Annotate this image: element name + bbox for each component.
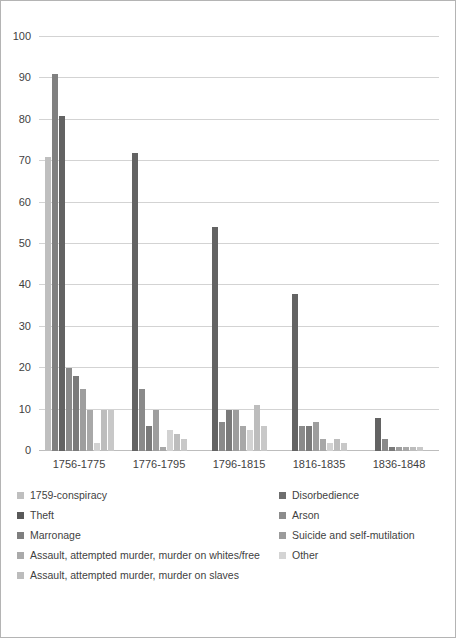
y-axis-tick-label: 20 [19,361,31,373]
legend-item: Arson [279,509,441,522]
bar [299,426,305,451]
bar [292,294,298,451]
legend-label: 1759-conspiracy [30,489,107,502]
x-axis-tick-label: 1816-1835 [279,458,359,470]
bar [306,426,312,451]
legend-label: Assault, attempted murder, murder on whi… [30,549,260,562]
legend-label: Assault, attempted murder, murder on sla… [30,569,239,582]
bar [313,422,319,451]
bar [45,157,51,451]
bar [389,447,395,451]
bar [375,418,381,451]
bar-group: 1776-1795 [119,37,199,451]
bar [167,430,173,451]
legend-item: Theft [17,509,279,522]
legend-item: 1759-conspiracy [17,489,279,502]
bar [219,422,225,451]
legend-item: Assault, attempted murder, murder on sla… [17,569,279,582]
legend-label: Theft [30,509,54,522]
y-axis-tick-label: 0 [25,444,31,456]
legend-swatch-icon [279,552,286,559]
bar [52,74,58,451]
legend-label: Marronage [30,529,81,542]
bar [334,439,340,451]
y-axis-tick-label: 70 [19,154,31,166]
bar [101,410,107,451]
bar [80,389,86,451]
bar [254,405,260,451]
legend-item: Other [279,549,441,562]
legend-swatch-icon [17,532,24,539]
bar [139,389,145,451]
bar [94,443,100,451]
plot-canvas: 0102030405060708090100 1756-17751776-179… [39,37,439,451]
x-axis-tick-label: 1796-1815 [199,458,279,470]
legend-row: Assault, attempted murder, murder on sla… [17,569,441,582]
bar [160,447,166,451]
bar [327,443,333,451]
bar [382,439,388,451]
x-axis-tick-label: 1836-1848 [359,458,439,470]
bar [410,447,416,451]
bar [59,116,65,451]
bar [417,447,423,451]
legend-item: Disorbedience [279,489,441,502]
bar [212,227,218,451]
bar-group: 1836-1848 [359,37,439,451]
legend-swatch-icon [17,552,24,559]
y-axis-tick-label: 40 [19,278,31,290]
bar [132,153,138,451]
bar [108,410,114,451]
legend-row: MarronageSuicide and self-mutilation [17,529,441,542]
bar [153,410,159,451]
legend-item: Suicide and self-mutilation [279,529,441,542]
legend-label: Other [292,549,318,562]
legend-swatch-icon [279,532,286,539]
y-axis-tick-label: 10 [19,403,31,415]
chart-legend: 1759-conspiracyDisorbedienceTheftArsonMa… [1,489,456,589]
legend-label: Arson [292,509,319,522]
legend-label: Suicide and self-mutilation [292,529,415,542]
bar [403,447,409,451]
bar [396,447,402,451]
legend-row: Assault, attempted murder, murder on whi… [17,549,441,562]
legend-item: Assault, attempted murder, murder on whi… [17,549,279,562]
y-axis-tick-label: 50 [19,237,31,249]
legend-swatch-icon [279,492,286,499]
bar [174,434,180,451]
bar [181,439,187,451]
legend-swatch-icon [17,512,24,519]
bar-group: 1796-1815 [199,37,279,451]
x-axis-tick-label: 1776-1795 [119,458,199,470]
legend-item-empty [279,569,441,582]
legend-label: Disorbedience [292,489,359,502]
bar [87,410,93,451]
bar [66,368,72,451]
bar-groups: 1756-17751776-17951796-18151816-18351836… [39,37,439,451]
y-axis-tick-label: 90 [19,71,31,83]
bar [226,410,232,451]
y-axis-tick-label: 30 [19,320,31,332]
bar [73,376,79,451]
bar [320,439,326,451]
chart-figure: 0102030405060708090100 1756-17751776-179… [0,0,456,638]
bar-group: 1756-1775 [39,37,119,451]
x-axis-tick-label: 1756-1775 [39,458,119,470]
bar [341,443,347,451]
y-axis-tick-label: 60 [19,196,31,208]
y-axis-tick-label: 80 [19,113,31,125]
legend-swatch-icon [17,492,24,499]
bar-group: 1816-1835 [279,37,359,451]
bar [146,426,152,451]
bar [261,426,267,451]
bar [233,410,239,451]
y-axis-tick-label: 100 [13,30,31,42]
chart-plot-area: 0102030405060708090100 1756-17751776-179… [1,1,456,479]
legend-swatch-icon [17,572,24,579]
bar [240,426,246,451]
legend-row: TheftArson [17,509,441,522]
legend-swatch-icon [279,512,286,519]
legend-row: 1759-conspiracyDisorbedience [17,489,441,502]
legend-item: Marronage [17,529,279,542]
bar [247,430,253,451]
